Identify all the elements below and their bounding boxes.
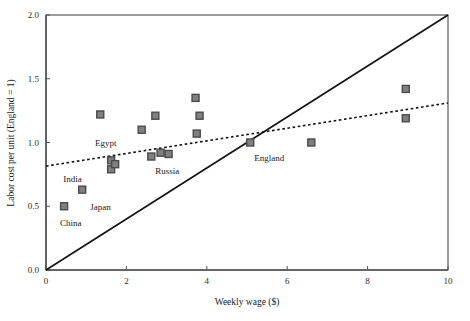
y-tick-label: 1.0 <box>28 138 40 148</box>
data-point-marker <box>148 153 155 160</box>
point-label-england: England <box>254 153 284 163</box>
x-tick-label: 2 <box>124 276 129 286</box>
data-point-marker <box>157 149 164 156</box>
y-tick-label: 1.5 <box>28 74 40 84</box>
data-point-marker <box>112 161 119 168</box>
y-axis-title: Labor cost per unit (England = 1) <box>6 79 17 206</box>
data-point-marker <box>152 112 159 119</box>
x-tick-label: 8 <box>365 276 370 286</box>
x-tick-label: 6 <box>285 276 290 286</box>
data-point-marker <box>192 94 199 101</box>
data-point-marker <box>247 139 254 146</box>
data-point-marker <box>308 139 315 146</box>
data-point-marker <box>193 130 200 137</box>
x-tick-label: 4 <box>205 276 210 286</box>
data-point-marker <box>196 112 203 119</box>
point-label-india: India <box>63 174 81 184</box>
y-tick-label: 0.5 <box>28 201 40 211</box>
point-label-russia: Russia <box>155 166 179 176</box>
x-axis-title: Weekly wage ($) <box>215 297 280 308</box>
data-point-marker <box>97 111 104 118</box>
x-tick-label: 10 <box>444 276 454 286</box>
data-point-marker <box>165 150 172 157</box>
data-point-marker <box>402 115 409 122</box>
chart-figure: 0246810 0.00.51.01.52.0 ChinaJapanEgyptI… <box>0 0 470 321</box>
x-tick-label: 0 <box>44 276 49 286</box>
point-label-china: China <box>60 218 82 228</box>
point-label-egypt: Egypt <box>95 138 117 148</box>
data-point-marker <box>79 186 86 193</box>
y-tick-label: 0.0 <box>28 265 40 275</box>
y-tick-label: 2.0 <box>28 10 40 20</box>
data-point-marker <box>402 85 409 92</box>
data-point-marker <box>61 203 68 210</box>
point-label-japan: Japan <box>90 202 111 212</box>
data-point-marker <box>138 126 145 133</box>
scatter-plot-svg: 0246810 0.00.51.01.52.0 ChinaJapanEgyptI… <box>0 0 470 321</box>
